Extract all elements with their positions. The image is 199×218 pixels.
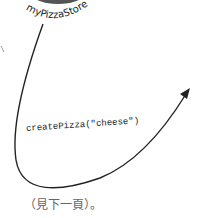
diagram-svg: myPizzaStore: [0, 0, 199, 218]
call-arrow-line: [15, 24, 186, 188]
diagram-canvas: myPizzaStore createPizza("cheese") （見下一頁…: [0, 0, 199, 218]
decorative-stroke: [1, 46, 4, 52]
see-next-page-note: （見下一頁）。: [24, 195, 102, 212]
arrowhead-icon: [180, 88, 190, 99]
